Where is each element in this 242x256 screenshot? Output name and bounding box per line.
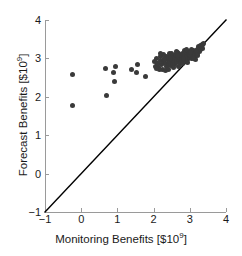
data-point [195, 53, 200, 58]
data-point [113, 64, 118, 69]
y-axis-label: Forecast Benefits [$109] [15, 19, 29, 211]
data-point [112, 79, 117, 84]
x-tick-3 [154, 208, 155, 212]
y-axis-line [45, 20, 46, 212]
y-tick-label-5: 4 [35, 14, 41, 26]
data-point [155, 61, 160, 66]
y-tick-label-1: 0 [35, 168, 41, 180]
x-tick-label-5: 4 [223, 213, 229, 225]
y-tick-3 [45, 97, 49, 98]
x-axis-label-text: Monitoring Benefits [$10 [55, 233, 179, 245]
x-tick-2 [117, 208, 118, 212]
x-tick-label-4: 3 [187, 213, 193, 225]
x-tick-label-1: 0 [78, 213, 84, 225]
y-axis-label-suffix: ] [17, 54, 29, 57]
x-tick-label-3: 2 [151, 213, 157, 225]
y-axis-label-text: Forecast Benefits [$10 [17, 61, 29, 176]
x-axis-line [45, 212, 226, 213]
y-tick-label-2: 1 [35, 129, 41, 141]
data-point [70, 103, 75, 108]
data-point [162, 57, 167, 62]
y-tick-label-4: 3 [35, 52, 41, 64]
data-point [134, 70, 139, 75]
data-point [104, 93, 109, 98]
x-tick-5 [226, 208, 227, 212]
y-tick-label-3: 2 [35, 91, 41, 103]
y-tick-0 [45, 212, 49, 213]
data-point [135, 62, 140, 67]
x-tick-1 [81, 208, 82, 212]
x-axis-label-suffix: ] [184, 233, 187, 245]
data-point [175, 53, 180, 58]
data-point [180, 61, 185, 66]
data-point [70, 72, 75, 77]
x-tick-label-2: 1 [114, 213, 120, 225]
data-point [154, 66, 159, 71]
data-point [166, 67, 171, 72]
y-tick-1 [45, 174, 49, 175]
data-point [143, 74, 148, 79]
scatter-plot-figure: −101234−101234 Monitoring Benefits [$109… [0, 0, 242, 256]
y-axis-label-exponent: 9 [15, 57, 24, 61]
data-point [185, 60, 190, 65]
data-point [103, 66, 108, 71]
y-tick-2 [45, 135, 49, 136]
data-point [171, 65, 176, 70]
y-tick-5 [45, 20, 49, 21]
data-point [168, 56, 173, 61]
y-tick-label-0: −1 [28, 206, 41, 218]
data-point [111, 70, 116, 75]
x-axis-label: Monitoring Benefits [$109] [0, 231, 242, 245]
y-tick-4 [45, 58, 49, 59]
data-point [188, 50, 193, 55]
x-tick-4 [190, 208, 191, 212]
